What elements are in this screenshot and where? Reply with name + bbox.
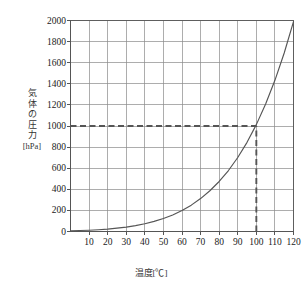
x-tick-label: 50 — [159, 237, 169, 247]
x-tick-label: 40 — [140, 237, 150, 247]
x-axis-title: 温度[℃] — [0, 266, 302, 279]
x-tick-label: 120 — [286, 237, 300, 247]
x-tick-label: 100 — [249, 237, 263, 247]
x-axis-tick-labels: 102030405060708090100110120 — [0, 0, 302, 288]
x-tick-label: 80 — [214, 237, 224, 247]
y-axis-title-char-2: の — [20, 109, 44, 120]
x-tick-label: 70 — [196, 237, 206, 247]
x-tick-label: 60 — [177, 237, 187, 247]
y-axis-title-char-3: 圧 — [20, 120, 44, 131]
vapor-pressure-chart: 0200400600800100012001400160018002000 10… — [0, 0, 302, 288]
x-tick-label: 30 — [122, 237, 132, 247]
x-tick-label: 20 — [103, 237, 113, 247]
y-axis-title-char-4: 力 — [20, 130, 44, 141]
x-tick-label: 110 — [268, 237, 282, 247]
y-axis-title-char-0: 気 — [20, 88, 44, 99]
x-tick-label: 90 — [233, 237, 243, 247]
y-axis-title: 気 体 の 圧 力 [hPa] — [20, 88, 44, 151]
y-axis-title-unit: [hPa] — [20, 141, 44, 152]
y-axis-title-char-1: 体 — [20, 99, 44, 110]
x-tick-label: 10 — [84, 237, 94, 247]
